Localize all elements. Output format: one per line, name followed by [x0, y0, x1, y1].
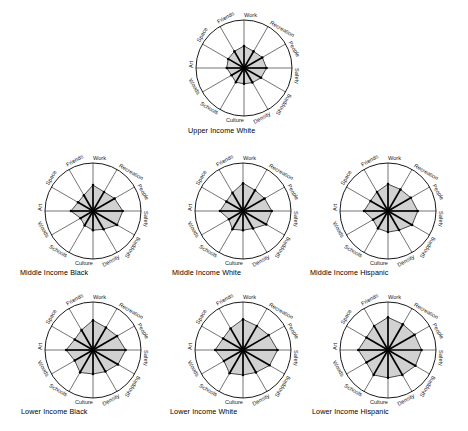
- radar-data-polygon: [66, 320, 126, 374]
- axis-label-schools: Schools: [199, 100, 219, 115]
- radar-vertex-shopping: [265, 223, 268, 226]
- radar-vertex-work: [243, 45, 246, 48]
- chart-caption-lower-income-black: Lower Income Black: [21, 407, 88, 416]
- radar-vertex-friends: [80, 329, 83, 332]
- radar-vertex-shopping: [268, 364, 271, 367]
- radar-vertex-safety: [420, 349, 423, 352]
- axis-label-friends: Friends: [360, 292, 379, 307]
- radar-vertex-culture: [92, 229, 95, 232]
- radar-vertex-art: [65, 349, 68, 352]
- axis-label-recreation: Recreation: [413, 301, 439, 320]
- radar-vertex-woods: [79, 217, 82, 220]
- radar-vertex-woods: [372, 218, 375, 221]
- radar-vertex-shopping: [116, 224, 119, 227]
- axis-label-space: Space: [195, 26, 208, 43]
- axis-label-people: People: [431, 183, 445, 201]
- axis-label-people: People: [286, 322, 300, 340]
- axis-label-people: People: [136, 322, 150, 340]
- radar-vertex-work: [92, 319, 95, 322]
- axis-label-people: People: [136, 183, 150, 201]
- axis-label-work: Work: [243, 155, 256, 161]
- radar-vertex-recreation: [399, 188, 402, 191]
- radar-vertex-space: [365, 336, 368, 339]
- axis-label-art: Art: [188, 60, 194, 68]
- axis-label-schools: Schools: [198, 243, 218, 258]
- radar-vertex-space: [225, 200, 228, 203]
- axis-label-work: Work: [93, 294, 106, 300]
- radar-vertex-density: [104, 370, 107, 373]
- radar-vertex-people: [268, 334, 271, 337]
- axis-label-space: Space: [44, 308, 57, 325]
- radar-vertex-work: [92, 184, 95, 187]
- axis-label-culture: Culture: [370, 260, 388, 266]
- radar-vertex-work: [242, 318, 245, 321]
- axis-label-culture: Culture: [225, 399, 243, 405]
- axis-label-safety: Safety: [294, 68, 300, 84]
- radar-vertex-space: [369, 200, 372, 203]
- radar-vertex-friends: [376, 191, 379, 194]
- axis-label-recreation: Recreation: [413, 162, 439, 181]
- axis-label-recreation: Recreation: [118, 162, 144, 181]
- radar-vertex-space: [227, 58, 230, 61]
- radar-vertex-space: [73, 338, 76, 341]
- radar-vertex-people: [116, 335, 119, 338]
- axis-label-culture: Culture: [226, 117, 244, 123]
- axis-label-schools: Schools: [48, 243, 68, 258]
- radar-vertex-friends: [233, 50, 236, 53]
- radar-vertex-people: [113, 197, 116, 200]
- axis-label-recreation: Recreation: [268, 162, 294, 181]
- axis-label-safety: Safety: [293, 211, 299, 227]
- radar-vertex-culture: [242, 374, 245, 377]
- radar-vertex-space: [77, 201, 80, 204]
- radar-vertex-woods: [73, 359, 76, 362]
- radar-vertex-culture: [92, 373, 95, 376]
- radar-vertex-safety: [124, 349, 127, 352]
- radar-vertex-friends: [83, 194, 86, 197]
- axis-label-work: Work: [388, 294, 401, 300]
- radar-vertex-recreation: [105, 326, 108, 329]
- axis-label-space: Space: [339, 169, 352, 186]
- radar-vertex-culture: [243, 83, 246, 86]
- axis-label-space: Space: [339, 308, 352, 325]
- axis-label-recreation: Recreation: [269, 19, 295, 38]
- axis-label-art: Art: [332, 203, 338, 211]
- axis-label-culture: Culture: [75, 399, 93, 405]
- radar-vertex-safety: [265, 67, 268, 70]
- chart-caption-lower-income-white: Lower Income White: [170, 407, 237, 416]
- axis-label-friends: Friends: [216, 10, 235, 25]
- radar-vertex-recreation: [254, 189, 257, 192]
- radar-vertex-people: [261, 56, 264, 59]
- axis-label-schools: Schools: [48, 382, 68, 397]
- radar-vertex-woods: [228, 218, 231, 221]
- radar-vertex-density: [255, 371, 258, 374]
- radar-vertex-density: [252, 227, 255, 230]
- radar-vertex-art: [214, 349, 217, 352]
- radar-vertex-safety: [122, 210, 125, 213]
- radar-vertex-friends: [231, 191, 234, 194]
- axis-label-people: People: [286, 183, 300, 201]
- radar-vertex-people: [410, 197, 413, 200]
- radar-vertex-woods: [365, 361, 368, 364]
- radar-data-polygon: [364, 184, 418, 232]
- radar-vertex-density: [251, 81, 254, 84]
- axis-label-schools: Schools: [343, 243, 363, 258]
- axis-label-space: Space: [194, 169, 207, 186]
- axis-label-culture: Culture: [370, 399, 388, 405]
- axis-label-recreation: Recreation: [268, 301, 294, 320]
- axis-label-art: Art: [187, 342, 193, 350]
- radar-vertex-safety: [417, 210, 420, 213]
- radar-vertex-friends: [229, 327, 232, 330]
- radar-vertex-art: [357, 349, 360, 352]
- radar-vertex-safety: [271, 210, 274, 213]
- radar-vertex-shopping: [117, 363, 120, 366]
- axis-label-work: Work: [93, 155, 106, 161]
- radar-vertex-recreation: [256, 325, 258, 328]
- radar-vertex-recreation: [402, 323, 405, 326]
- radar-vertex-schools: [231, 228, 234, 231]
- radar-vertex-work: [242, 182, 245, 185]
- axis-label-space: Space: [44, 169, 57, 186]
- radar-vertex-recreation: [103, 191, 106, 194]
- radar-vertex-space: [222, 337, 225, 340]
- axis-label-safety: Safety: [438, 350, 444, 366]
- axis-label-schools: Schools: [343, 382, 363, 397]
